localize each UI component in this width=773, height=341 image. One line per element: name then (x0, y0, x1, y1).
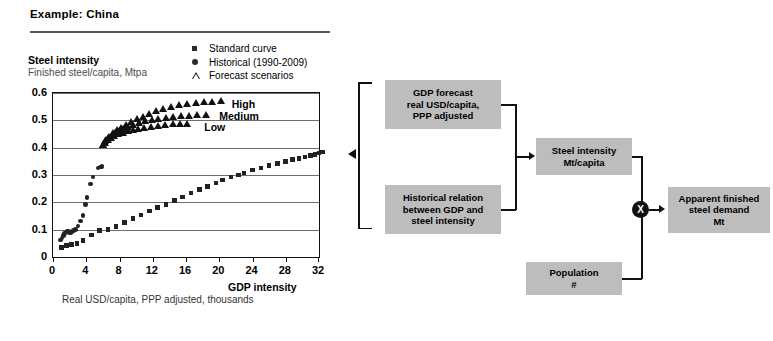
chart-data-point (122, 220, 127, 225)
legend-label: Historical (1990-2009) (209, 56, 307, 70)
circle-marker-icon (192, 59, 206, 65)
legend-item-historical: Historical (1990-2009) (192, 56, 307, 70)
y-axis-labels: 00.10.20.30.40.50.6 (0, 92, 47, 258)
chart-plot-area: HighMediumLow (52, 92, 320, 258)
flow-box-line1: Steel intensity (552, 145, 616, 157)
chart-data-point (167, 103, 175, 110)
flow-box-line1: Population (549, 267, 598, 279)
chart-data-point (78, 219, 83, 224)
series-annotation: Low (204, 121, 225, 133)
y-tick-label: 0 (41, 250, 47, 262)
chart-gridline (53, 202, 319, 203)
chart-data-point (189, 191, 194, 196)
chart-data-point (147, 209, 152, 214)
multiply-operator-label: X (637, 204, 644, 215)
arrowhead-demand-icon (659, 205, 665, 213)
flow-box-line2: # (571, 279, 576, 291)
chart-data-point (177, 112, 185, 119)
flow-box-steel-intensity[interactable]: Steel intensity Mt/capita (536, 138, 632, 175)
flow-box-line1: Historical relation (403, 192, 483, 204)
chart-data-point (155, 205, 160, 210)
chart-data-point (220, 178, 225, 183)
page-title: Example: China (30, 8, 119, 20)
chart-data-point (172, 198, 177, 203)
triangle-marker-icon (192, 72, 206, 79)
chart-data-point (81, 213, 86, 218)
flow-box-gdp-forecast[interactable]: GDP forecast real USD/capita, PPP adjust… (385, 80, 501, 129)
x-tick-mark (186, 257, 187, 262)
x-tick-mark (253, 257, 254, 262)
multiply-operator-node[interactable]: X (632, 201, 649, 218)
x-tick-mark (286, 257, 287, 262)
flow-box-population[interactable]: Population # (526, 262, 622, 295)
bracket-vertical (358, 82, 360, 229)
x-tick-mark (318, 257, 319, 262)
x-tick-mark (120, 257, 121, 262)
chart-data-point (106, 227, 111, 232)
chart-data-point (202, 111, 210, 118)
x-tick-label: 12 (146, 264, 158, 276)
connector-gdp-out (501, 104, 516, 106)
x-tick-label: 16 (179, 264, 191, 276)
flow-box-line3: PPP adjusted (413, 110, 474, 122)
y-tick-label: 0.4 (32, 141, 47, 153)
y-tick-label: 0.5 (32, 113, 47, 125)
chart-data-point (200, 98, 208, 105)
chart-data-point (229, 175, 234, 180)
title-divider (30, 31, 330, 33)
chart-data-point (75, 241, 80, 246)
chart-data-point (81, 238, 86, 243)
y-tick-label: 0.6 (32, 86, 47, 98)
legend-item-forecast: Forecast scenarios (192, 69, 307, 83)
chart-data-point (197, 187, 202, 192)
flow-box-line3: Mt (713, 216, 724, 228)
flow-box-line2: Mt/capita (563, 157, 604, 169)
bracket-arrowhead-icon (348, 149, 356, 159)
chart-data-point (100, 164, 105, 169)
x-tick-mark (219, 257, 220, 262)
x-tick-mark (153, 257, 154, 262)
chart-data-point (131, 216, 136, 221)
arrowhead-steel-intensity-icon (529, 152, 535, 160)
chart-data-point (183, 120, 191, 127)
chart-data-point (88, 182, 93, 187)
square-marker-icon (192, 46, 206, 51)
x-tick-label: 28 (279, 264, 291, 276)
connector-population-out (622, 278, 642, 280)
chart-data-point (214, 181, 219, 186)
chart-data-point (175, 101, 183, 108)
chart-data-point (183, 100, 191, 107)
chart-data-point (89, 233, 94, 238)
chart-data-point (217, 97, 225, 104)
chart-gridline (53, 93, 319, 94)
flow-box-line3: steel intensity (411, 215, 474, 227)
x-tick-label: 0 (49, 264, 55, 276)
x-axis-subtitle: Real USD/capita, PPP adjusted, thousands (62, 294, 254, 305)
x-tick-mark (86, 257, 87, 262)
chart-data-point (114, 224, 119, 229)
y-tick-label: 0.1 (32, 223, 47, 235)
legend-item-standard-curve: Standard curve (192, 42, 307, 56)
connector-historical-out (501, 209, 516, 211)
chart-data-point (139, 213, 144, 218)
flow-box-apparent-demand[interactable]: Apparent finished steel demand Mt (668, 187, 770, 233)
chart-data-point (69, 242, 74, 247)
chart-title: Steel intensity (28, 54, 99, 66)
chart-data-point (283, 159, 288, 164)
bracket-top-arm (358, 82, 372, 84)
chart-data-point (208, 98, 216, 105)
x-axis-title: GDP intensity (228, 281, 297, 293)
chart-subtitle: Finished steel/capita, Mtpa (28, 67, 147, 78)
chart-data-point (83, 202, 88, 207)
chart-data-point (73, 227, 78, 232)
y-tick-label: 0.3 (32, 168, 47, 180)
flow-box-line1: Apparent finished (679, 193, 760, 205)
x-tick-label: 20 (212, 264, 224, 276)
chart-data-point (193, 111, 201, 118)
chart-gridline (53, 230, 319, 231)
flow-box-historical-relation[interactable]: Historical relation between GDP and stee… (385, 185, 501, 234)
flow-box-line1: GDP forecast (413, 87, 473, 99)
chart-data-point (180, 195, 185, 200)
flow-box-line2: real USD/capita, (407, 99, 479, 111)
legend-label: Forecast scenarios (209, 69, 293, 83)
